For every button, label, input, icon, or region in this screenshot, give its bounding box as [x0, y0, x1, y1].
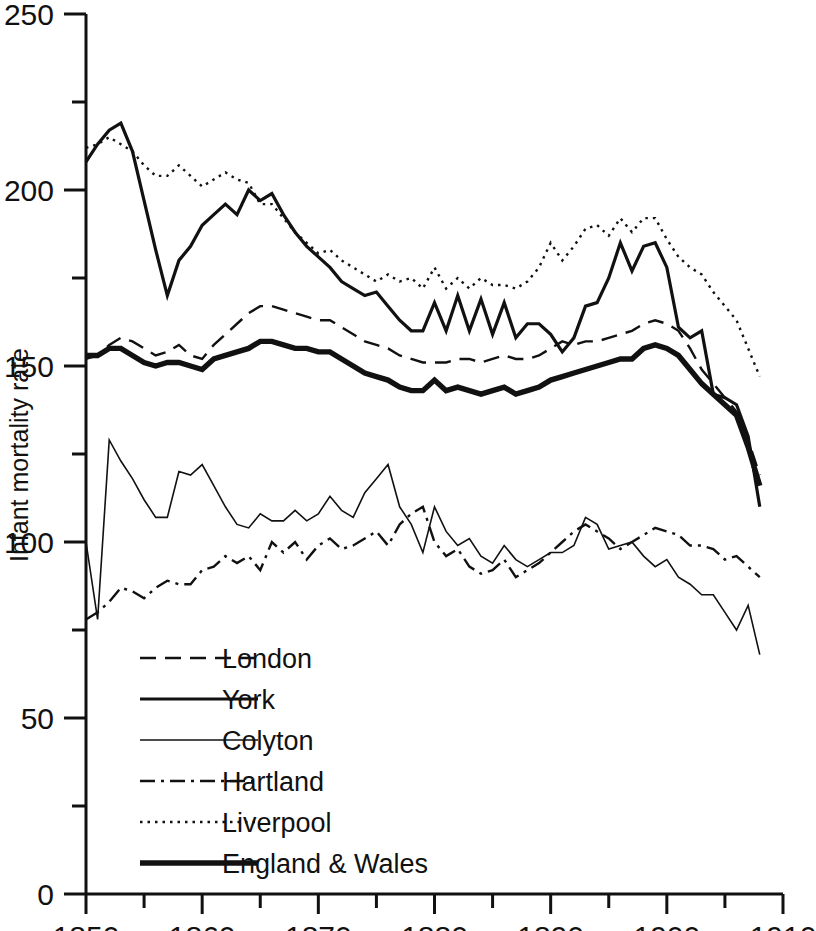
- y-tick-label: 250: [4, 0, 54, 31]
- y-tick-label: 0: [37, 878, 54, 911]
- y-tick-label: 200: [4, 174, 54, 207]
- chart-background: [0, 0, 816, 931]
- legend-label-york: York: [222, 685, 276, 715]
- legend-label-hartland: Hartland: [222, 767, 324, 797]
- legend-label-london: London: [222, 644, 312, 674]
- x-tick-label: 1890: [517, 920, 584, 931]
- infant-mortality-line-chart: 050100150200250 185018601870188018901900…: [0, 0, 816, 931]
- y-tick-label: 50: [21, 702, 54, 735]
- x-tick-label: 1910: [750, 920, 816, 931]
- x-tick-label: 1870: [285, 920, 352, 931]
- x-tick-label: 1860: [169, 920, 236, 931]
- y-axis-title: Infant mortality rate: [5, 348, 33, 562]
- legend-label-colyton: Colyton: [222, 726, 314, 756]
- x-tick-label: 1900: [633, 920, 700, 931]
- x-tick-label: 1850: [53, 920, 120, 931]
- x-tick-label: 1880: [401, 920, 468, 931]
- legend-label-england-wales: England & Wales: [222, 849, 428, 879]
- chart-figure: 050100150200250 185018601870188018901900…: [0, 0, 816, 931]
- legend-label-liverpool: Liverpool: [222, 808, 332, 838]
